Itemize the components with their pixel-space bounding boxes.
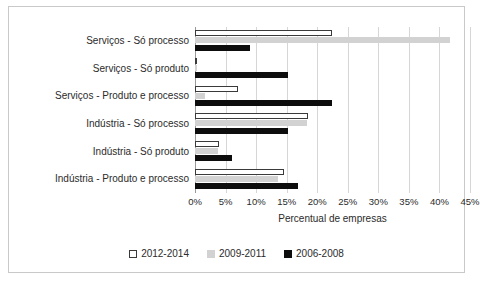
gridline-45pct [470,27,471,193]
bar-servicos-so-processo-2009-2011 [195,37,450,43]
category-row-servicos-produto-e-processo: Serviços - Produto e processo [195,82,470,110]
category-label-servicos-produto-e-processo: Serviços - Produto e processo [55,82,189,110]
chart-legend: 2012-2014 2009-2011 2006-2008 [9,248,464,259]
bar-industria-so-processo-2009-2011 [195,120,307,126]
category-label-servicos-so-produto: Serviços - Só produto [93,55,189,83]
x-tick-label-30pct: 30% [369,196,388,207]
legend-label-2006-2008: 2006-2008 [296,248,344,259]
bar-industria-produto-e-processo-2012-2014 [195,169,284,175]
bar-industria-so-processo-2006-2008 [195,128,288,134]
bar-industria-so-processo-2012-2014 [195,113,308,119]
category-row-servicos-so-produto: Serviços - Só produto [195,55,470,83]
x-tick-label-35pct: 35% [399,196,418,207]
x-tick-label-10pct: 10% [247,196,266,207]
legend-swatch-icon-2006-2008 [284,250,292,258]
x-tick-label-15pct: 15% [277,196,296,207]
bar-servicos-so-produto-2009-2011 [195,65,197,71]
bar-industria-produto-e-processo-2006-2008 [195,183,298,189]
x-tick-label-0pct: 0% [188,196,202,207]
legend-label-2012-2014: 2012-2014 [141,248,189,259]
bar-servicos-produto-e-processo-2009-2011 [195,93,205,99]
bar-servicos-produto-e-processo-2006-2008 [195,100,332,106]
bar-industria-produto-e-processo-2009-2011 [195,176,278,182]
category-row-servicos-so-processo: Serviços - Só processo [195,27,470,55]
bar-industria-so-produto-2012-2014 [195,141,219,147]
x-axis-title: Percentual de empresas [195,213,470,224]
category-row-industria-so-produto: Indústria - Só produto [195,138,470,166]
category-row-industria-produto-e-processo: Indústria - Produto e processo [195,165,470,193]
category-row-industria-so-processo: Indústria - Só processo [195,110,470,138]
x-tick-label-40pct: 40% [430,196,449,207]
category-label-industria-so-processo: Indústria - Só processo [86,110,189,138]
x-tick-label-5pct: 5% [219,196,233,207]
legend-item-2006-2008[interactable]: 2006-2008 [284,248,344,259]
x-tick-label-20pct: 20% [308,196,327,207]
category-label-industria-so-produto: Indústria - Só produto [93,138,189,166]
bar-servicos-produto-e-processo-2012-2014 [195,86,238,92]
x-tick-label-25pct: 25% [338,196,357,207]
bar-servicos-so-produto-2012-2014 [195,58,197,64]
bar-industria-so-produto-2006-2008 [195,155,232,161]
legend-label-2009-2011: 2009-2011 [219,248,266,259]
category-label-servicos-so-processo: Serviços - Só processo [86,27,189,55]
legend-swatch-icon-2009-2011 [207,250,215,258]
bar-servicos-so-processo-2006-2008 [195,45,250,51]
plot-area: Serviços - Só processoServiços - Só prod… [195,27,470,193]
chart-frame: Serviços - Só processoServiços - Só prod… [8,6,465,273]
bar-industria-so-produto-2009-2011 [195,148,218,154]
x-tick-label-45pct: 45% [460,196,479,207]
category-label-industria-produto-e-processo: Indústria - Produto e processo [55,165,189,193]
legend-item-2012-2014[interactable]: 2012-2014 [129,248,189,259]
x-axis-tick-labels: 0%5%10%15%20%25%30%35%40%45% [195,196,470,210]
bar-servicos-so-processo-2012-2014 [195,30,332,36]
bar-servicos-so-produto-2006-2008 [195,72,288,78]
legend-item-2009-2011[interactable]: 2009-2011 [207,248,266,259]
legend-swatch-icon-2012-2014 [129,250,137,258]
